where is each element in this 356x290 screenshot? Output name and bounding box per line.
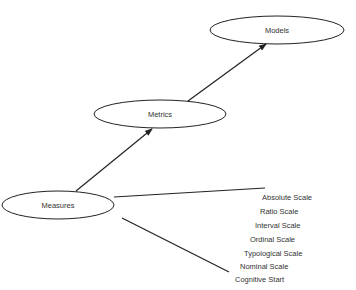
scale-lower-line [122, 218, 229, 272]
measures-to-metrics-arrow [76, 129, 152, 191]
metrics-to-models-arrow [188, 44, 266, 101]
measures-label: Measures [42, 201, 75, 210]
scale-label-cognitive-start: Cognitive Start [235, 275, 284, 284]
diagram-canvas [0, 0, 356, 290]
scale-upper-line [114, 188, 265, 197]
models-label: Models [265, 26, 289, 35]
scale-label-ordinal: Ordinal Scale [250, 235, 295, 244]
scale-label-ratio: Ratio Scale [260, 207, 298, 216]
scale-label-typological: Typological Scale [244, 249, 302, 258]
scale-label-interval: Interval Scale [255, 221, 300, 230]
metrics-label: Metrics [148, 110, 172, 119]
scale-label-absolute: Absolute Scale [262, 193, 312, 202]
scale-label-nominal: Nominal Scale [240, 262, 288, 271]
